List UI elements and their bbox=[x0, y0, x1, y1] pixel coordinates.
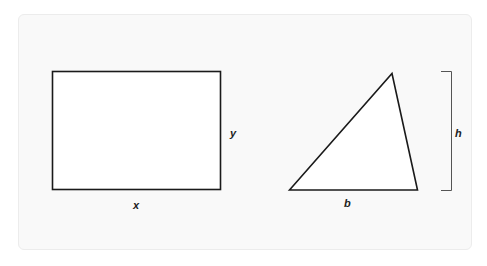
triangle-height-label: h bbox=[455, 127, 462, 139]
rectangle-width-label: x bbox=[132, 199, 140, 211]
triangle-base-label: b bbox=[344, 197, 351, 209]
triangle-shape bbox=[290, 74, 418, 191]
rectangle-height-label: y bbox=[229, 127, 237, 139]
height-bracket bbox=[441, 72, 452, 191]
rectangle-shape bbox=[53, 72, 221, 190]
shapes-diagram: y x b h bbox=[0, 0, 487, 266]
